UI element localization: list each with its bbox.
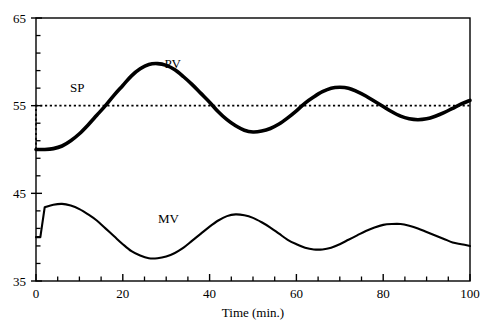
process-control-chart: 020406080100 35455565 SP PV MV Time (min…	[0, 0, 488, 330]
y-tick-label: 65	[13, 11, 26, 26]
series-label-pv: PV	[164, 56, 181, 71]
chart-plot-area: 020406080100 35455565 SP PV MV Time (min…	[0, 0, 488, 330]
x-tick-label: 100	[460, 286, 480, 301]
x-tick-label: 40	[203, 286, 216, 301]
series-label-mv: MV	[158, 211, 180, 226]
y-tick-label: 55	[13, 98, 26, 113]
x-tick-label: 60	[290, 286, 303, 301]
y-tick-label: 45	[13, 186, 26, 201]
x-axis-title: Time (min.)	[222, 305, 284, 320]
x-tick-label: 80	[377, 286, 390, 301]
x-tick-label: 0	[33, 286, 40, 301]
y-tick-label: 35	[13, 274, 26, 289]
series-label-sp: SP	[70, 80, 84, 95]
x-tick-label: 20	[116, 286, 129, 301]
